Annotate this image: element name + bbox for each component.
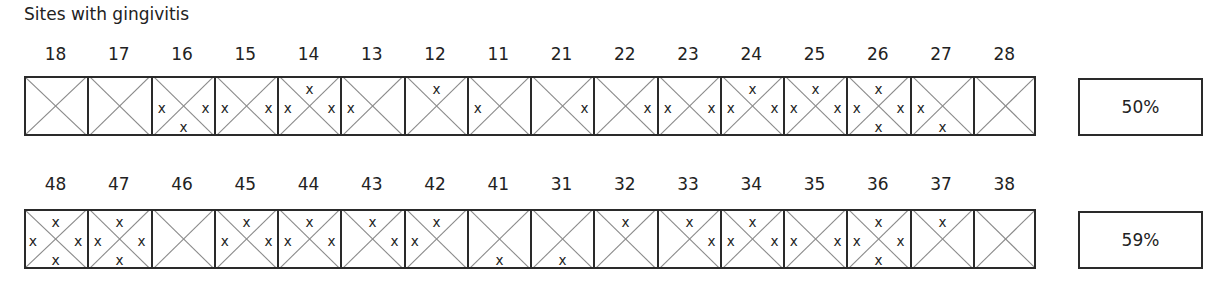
tooth-number: 23 (657, 44, 720, 68)
tooth-cell: xx (910, 76, 973, 136)
tooth-number: 26 (846, 44, 909, 68)
tooth-number: 47 (87, 174, 150, 198)
tooth-diagonals-icon: xxxx (848, 76, 909, 136)
tooth-number: 11 (467, 44, 530, 68)
gingivitis-site-marker: x (495, 252, 503, 268)
tooth-cell: x (404, 76, 467, 136)
tooth-diagonals-icon: x (532, 76, 593, 136)
tooth-number: 17 (87, 44, 150, 68)
gingivitis-site-marker: x (875, 214, 883, 230)
tooth-diagonals-icon: xxx (722, 76, 783, 136)
gingivitis-site-marker: x (707, 233, 715, 249)
gingivitis-site-marker: x (748, 214, 756, 230)
gingivitis-site-marker: x (559, 252, 567, 268)
gingivitis-site-marker: x (748, 81, 756, 97)
gingivitis-site-marker: x (875, 81, 883, 97)
tooth-cell: x (467, 76, 530, 136)
tooth-diagonals-icon: xxxx (89, 209, 150, 269)
tooth-diagonals-icon: x (595, 209, 656, 269)
gingivitis-site-marker: x (644, 100, 652, 116)
gingivitis-site-marker: x (29, 233, 37, 249)
tooth-diagonals-icon: x (469, 76, 530, 136)
tooth-number: 33 (657, 174, 720, 198)
gingivitis-site-marker: x (201, 100, 209, 116)
lower-tooth-numbers: 48474645444342413132333435363738 (24, 174, 1036, 198)
tooth-cell (151, 209, 214, 269)
tooth-cell: xx (657, 209, 720, 269)
gingivitis-site-marker: x (74, 233, 82, 249)
tooth-cell (87, 76, 150, 136)
tooth-diagonals-icon: xx (216, 76, 277, 136)
tooth-cell (24, 76, 87, 136)
gingivitis-site-marker: x (391, 233, 399, 249)
tooth-diagonals-icon: xx (342, 209, 403, 269)
tooth-diagonals-icon (89, 76, 150, 136)
tooth-cell: x (340, 76, 403, 136)
gingivitis-site-marker: x (834, 100, 842, 116)
gingivitis-site-marker: x (410, 233, 418, 249)
tooth-cell: xxxx (24, 209, 87, 269)
lower-jaw-row: xxxxxxxxxxxxxxxxxxxxxxxxxxxxxxxxx (24, 209, 1036, 269)
gingivitis-site-marker: x (94, 233, 102, 249)
tooth-number: 38 (973, 174, 1036, 198)
gingivitis-site-marker: x (264, 100, 272, 116)
chart-title: Sites with gingivitis (24, 4, 189, 24)
gingivitis-site-marker: x (726, 100, 734, 116)
gingivitis-site-marker: x (897, 100, 905, 116)
gingivitis-site-marker: x (897, 233, 905, 249)
upper-tooth-numbers: 18171615141312112122232425262728 (24, 44, 1036, 68)
gingivitis-site-marker: x (220, 100, 228, 116)
tooth-diagonals-icon: xx (659, 209, 720, 269)
tooth-cell: xxx (214, 209, 277, 269)
gingivitis-site-marker: x (51, 252, 59, 268)
tooth-number: 18 (24, 44, 87, 68)
gingivitis-site-marker: x (306, 81, 314, 97)
tooth-diagonals-icon: x (912, 209, 973, 269)
tooth-cell: x (530, 76, 593, 136)
tooth-number: 14 (277, 44, 340, 68)
tooth-cell: x (467, 209, 530, 269)
tooth-cell: x (593, 76, 656, 136)
tooth-diagonals-icon (975, 76, 1036, 136)
gingivitis-site-marker: x (812, 81, 820, 97)
tooth-cell: x (593, 209, 656, 269)
tooth-diagonals-icon: x (342, 76, 403, 136)
lower-percentage-box: 59% (1078, 211, 1203, 269)
tooth-number: 13 (340, 44, 403, 68)
tooth-cell: x (910, 209, 973, 269)
tooth-diagonals-icon: x (532, 209, 593, 269)
gingivitis-site-marker: x (790, 233, 798, 249)
gingivitis-site-marker: x (432, 214, 440, 230)
tooth-diagonals-icon: xx (912, 76, 973, 136)
tooth-number: 45 (214, 174, 277, 198)
tooth-diagonals-icon: xxxx (848, 209, 909, 269)
gingivitis-site-marker: x (707, 100, 715, 116)
tooth-cell: xxx (151, 76, 214, 136)
tooth-cell: xxx (720, 209, 783, 269)
gingivitis-site-marker: x (179, 119, 187, 135)
tooth-number: 46 (151, 174, 214, 198)
tooth-diagonals-icon: xxx (722, 209, 783, 269)
gingivitis-site-marker: x (328, 100, 336, 116)
tooth-cell: xxx (720, 76, 783, 136)
gingivitis-site-marker: x (581, 100, 589, 116)
tooth-cell: x (530, 209, 593, 269)
gingivitis-site-marker: x (328, 233, 336, 249)
tooth-diagonals-icon (153, 209, 214, 269)
tooth-number: 43 (340, 174, 403, 198)
tooth-diagonals-icon: xxx (279, 209, 340, 269)
gingivitis-site-marker: x (938, 214, 946, 230)
tooth-number: 32 (593, 174, 656, 198)
gingivitis-site-marker: x (770, 100, 778, 116)
tooth-diagonals-icon (975, 209, 1036, 269)
tooth-number: 35 (783, 174, 846, 198)
tooth-cell: xx (214, 76, 277, 136)
tooth-cell: xx (404, 209, 467, 269)
tooth-number: 27 (910, 44, 973, 68)
gingivitis-site-marker: x (264, 233, 272, 249)
gingivitis-site-marker: x (853, 233, 861, 249)
tooth-diagonals-icon: xxxx (24, 209, 87, 269)
tooth-cell: xxx (277, 76, 340, 136)
tooth-number: 15 (214, 44, 277, 68)
tooth-number: 22 (593, 44, 656, 68)
